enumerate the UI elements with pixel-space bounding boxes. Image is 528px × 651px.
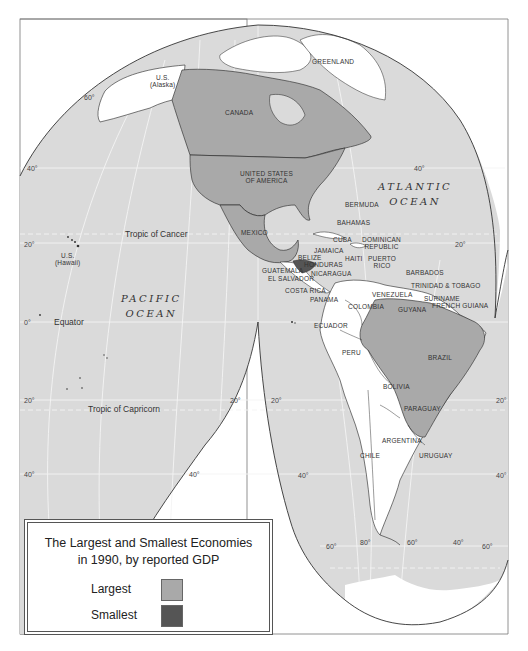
- deg-lat-20s-w: 20°: [24, 397, 35, 404]
- label-paraguay: PARAGUAY: [404, 405, 441, 412]
- deg-lat-20-e: 20°: [455, 241, 466, 248]
- deg-lat-40-e: 40°: [414, 165, 425, 172]
- label-uruguay: URUGUAY: [419, 452, 452, 459]
- deg-lat-40s-w: 40°: [24, 471, 35, 478]
- label-bahamas: BAHAMAS: [337, 219, 370, 226]
- label-french-guiana: FRENCH GUIANA: [432, 302, 488, 309]
- swatch-smallest: [161, 605, 183, 627]
- hawaii-line2: (Hawaii): [55, 259, 80, 266]
- legend-item-smallest: Smallest: [28, 605, 269, 627]
- deg-lat-40-w: 40°: [27, 165, 38, 172]
- hawaii-line1: U.S.: [55, 252, 80, 259]
- deg-lon-40: 40°: [453, 539, 464, 546]
- label-barbados: BARBADOS: [406, 269, 444, 276]
- label-usa: UNITED STATES OF AMERICA: [240, 170, 293, 184]
- label-guyana: GUYANA: [398, 306, 426, 313]
- deg-lat-60s-e: 60°: [482, 543, 493, 550]
- pr-line2: RICO: [368, 262, 396, 269]
- label-alaska: U.S. (Alaska): [150, 74, 175, 88]
- label-costa-rica: COSTA RICA: [285, 287, 326, 294]
- atlantic-line2: OCEAN: [378, 195, 452, 210]
- label-dominican-republic: DOMINICAN REPUBLIC: [362, 236, 401, 250]
- legend-title-line2: in 1990, by reported GDP: [28, 552, 269, 569]
- label-canada: CANADA: [225, 109, 253, 116]
- legend-label-largest: Largest: [91, 582, 131, 596]
- alaska-line1: U.S.: [150, 74, 175, 81]
- label-ecuador: ECUADOR: [314, 322, 348, 329]
- legend-title-line1: The Largest and Smallest Economies: [28, 535, 269, 552]
- alaska-line2: (Alaska): [150, 81, 175, 88]
- label-el-salvador: EL SALVADOR: [268, 275, 314, 282]
- pr-line1: PUERTO: [368, 255, 396, 262]
- usa-line1: UNITED STATES: [240, 170, 293, 177]
- deg-lat-0: 0°: [24, 319, 31, 326]
- label-puerto-rico: PUERTO RICO: [368, 255, 396, 269]
- label-venezuela: VENEZUELA: [372, 291, 412, 298]
- deg-lat-60-nw: 60°: [84, 94, 95, 101]
- label-nicaragua: NICARAGUA: [311, 270, 351, 277]
- deg-lat-20s-e: 20°: [496, 397, 507, 404]
- deg-lat-40s-e: 40°: [496, 472, 507, 479]
- label-haiti: HAITI: [345, 255, 363, 262]
- map-legend: The Largest and Smallest Economies in 19…: [27, 522, 270, 632]
- label-cuba: CUBA: [333, 236, 352, 243]
- pacific-ocean-label: PACIFIC OCEAN: [121, 292, 182, 321]
- label-argentina: ARGENTINA: [382, 437, 422, 444]
- label-guatemala: GUATEMALA: [262, 267, 303, 274]
- deg-lat-40s-mid2: 40°: [298, 472, 309, 479]
- deg-lat-20s-mid2: 20°: [271, 397, 282, 404]
- deg-lon-80: 80°: [360, 539, 371, 546]
- label-greenland: GREENLAND: [312, 58, 354, 65]
- deg-lat-20s-mid1: 20°: [230, 397, 241, 404]
- atlantic-line1: ATLANTIC: [378, 180, 452, 195]
- tropic-of-capricorn-label: Tropic of Capricorn: [88, 404, 160, 414]
- label-panama: PANAMA: [310, 296, 338, 303]
- label-mexico: MEXICO: [241, 229, 268, 236]
- label-trinidad-tobago: TRINIDAD & TOBAGO: [411, 282, 481, 289]
- label-bermuda: BERMUDA: [345, 201, 379, 208]
- legend-item-largest: Largest: [28, 579, 269, 601]
- dr-line1: DOMINICAN: [362, 236, 401, 243]
- atlantic-ocean-label: ATLANTIC OCEAN: [378, 180, 452, 209]
- usa-line2: OF AMERICA: [240, 177, 293, 184]
- legend-label-smallest: Smallest: [91, 608, 137, 622]
- label-colombia: COLOMBIA: [348, 303, 384, 310]
- tropic-of-cancer-label: Tropic of Cancer: [125, 229, 188, 239]
- deg-lat-60s-a: 60°: [326, 543, 337, 550]
- label-bolivia: BOLIVIA: [383, 383, 410, 390]
- equator-label: Equator: [54, 317, 84, 327]
- swatch-largest: [161, 579, 183, 601]
- deg-lat-20-w: 20°: [24, 241, 35, 248]
- legend-title: The Largest and Smallest Economies in 19…: [28, 535, 269, 568]
- pacific-line1: PACIFIC: [121, 292, 182, 307]
- label-peru: PERU: [342, 349, 361, 356]
- label-honduras: HONDURAS: [304, 261, 343, 268]
- label-chile: CHILE: [360, 452, 380, 459]
- dr-line2: REPUBLIC: [362, 243, 401, 250]
- label-hawaii: U.S. (Hawaii): [55, 252, 80, 266]
- label-brazil: BRAZIL: [428, 354, 452, 361]
- pacific-line2: OCEAN: [121, 307, 182, 322]
- deg-lon-60: 60°: [407, 539, 418, 546]
- deg-lat-40s-mid1: 40°: [189, 471, 200, 478]
